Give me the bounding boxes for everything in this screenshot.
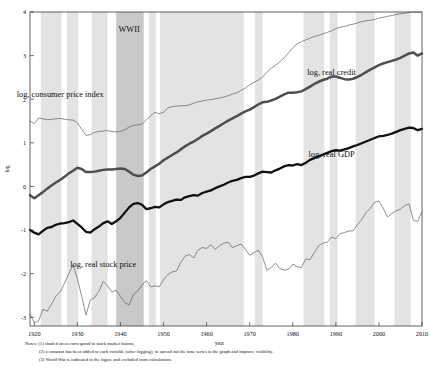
y-tick-label: 4 (23, 8, 26, 15)
x-tick-label: 1990 (330, 330, 342, 337)
note-line-1: Notes: (1) shaded areas correspond to st… (25, 340, 425, 348)
x-tick-label: 2010 (416, 330, 428, 337)
y-tick-label: -3 (21, 314, 26, 321)
note-line-3: (3) World War is indicated in the figure… (25, 356, 425, 364)
x-tick-label: 2000 (373, 330, 385, 337)
x-tick-label: 1950 (157, 330, 169, 337)
y-tick-label: 0 (23, 183, 26, 190)
annotation-cpi: log, consumer price index (17, 90, 105, 99)
annotation-gdp: log, real GDP (308, 150, 355, 159)
note-line-2: (2) a constant has been added to each va… (25, 348, 425, 356)
x-tick-label: 1960 (200, 330, 212, 337)
annotation-credit: log, real credit (307, 68, 356, 77)
y-tick-label: 1 (23, 139, 26, 146)
boom-band (41, 12, 62, 326)
x-tick-label: 1920 (28, 330, 40, 337)
y-tick-label: 3 (23, 52, 26, 59)
x-tick-label: 1980 (287, 330, 299, 337)
y-tick-label: -2 (21, 270, 26, 277)
chart-svg: 1920193019401950196019701980199020002010… (0, 0, 431, 370)
figure-canvas: 1920193019401950196019701980199020002010… (0, 0, 431, 370)
boom-band (160, 12, 244, 326)
annotation-wwii: WWII (118, 25, 140, 34)
figure-notes: Notes: (1) shaded areas correspond to st… (25, 340, 425, 365)
x-tick-label: 1930 (71, 330, 83, 337)
boom-band (255, 12, 263, 326)
y-tick-label: -1 (21, 226, 26, 233)
y-axis-title: log (4, 165, 10, 172)
annotation-stock-price: log, real stock price (70, 260, 136, 269)
boom-band (330, 12, 338, 326)
boom-band (356, 12, 375, 326)
x-tick-label: 1970 (244, 330, 256, 337)
x-tick-label: 1940 (114, 330, 126, 337)
boom-band (304, 12, 325, 326)
